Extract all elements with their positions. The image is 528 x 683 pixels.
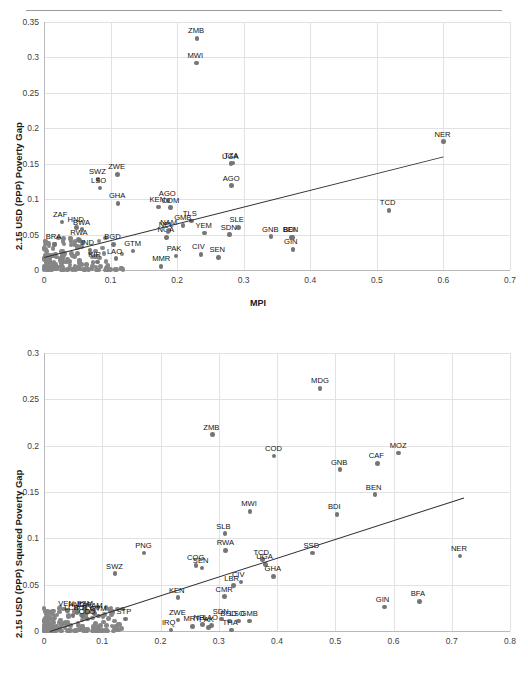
data-point	[46, 621, 51, 626]
x-axis-tick-label: 0.4	[263, 636, 291, 646]
data-point	[99, 629, 104, 634]
data-point	[176, 618, 181, 623]
data-point	[269, 234, 274, 239]
data-point	[64, 260, 69, 265]
data-point	[291, 247, 296, 252]
data-point-label: GTM	[124, 239, 141, 248]
y-axis-tick-label: 0.2	[10, 441, 39, 451]
x-axis-tick-label: 0.5	[363, 275, 391, 285]
y-axis-line	[44, 353, 45, 631]
data-point-label: ZMB	[188, 26, 204, 35]
data-point-label: ZAF	[53, 210, 67, 219]
data-point	[174, 254, 179, 259]
data-point	[181, 223, 186, 228]
data-point	[114, 256, 119, 261]
data-point-label: ZWE	[108, 162, 125, 171]
header-divider	[26, 10, 502, 11]
data-point	[75, 266, 80, 271]
data-point	[123, 617, 128, 622]
data-point-label: RWA	[70, 228, 87, 237]
data-point	[80, 227, 85, 232]
data-point-label: COD	[79, 607, 96, 616]
data-point-label: GNB	[331, 458, 347, 467]
y-axis-tick-label: 0.25	[10, 88, 39, 98]
x-axis-tick-label: 0.2	[147, 636, 175, 646]
data-point-label: PAK	[199, 615, 214, 624]
data-point	[142, 551, 147, 556]
x-axis-tick-label: 0.2	[163, 275, 191, 285]
y-axis-tick-label: 0.2	[10, 123, 39, 133]
data-point-label: NER	[451, 544, 467, 553]
data-point-label: BDI	[328, 502, 341, 511]
gridline-vertical	[377, 22, 378, 270]
data-point	[375, 461, 380, 466]
gridline-vertical	[510, 353, 511, 631]
gridline-vertical	[177, 22, 178, 270]
gridline-horizontal	[44, 353, 510, 354]
figure-page: 2.15 USD (PPP) poverty measures and MPI …	[0, 0, 528, 683]
y-axis-tick-label: 0.05	[10, 580, 39, 590]
data-point	[54, 266, 59, 271]
data-point-label: BEN	[366, 483, 382, 492]
data-point	[200, 566, 205, 571]
data-point-label: YEM	[195, 221, 211, 230]
data-point	[156, 205, 161, 210]
x-axis-tick-label: 0.8	[496, 636, 524, 646]
data-point	[216, 255, 221, 260]
gridline-vertical	[443, 22, 444, 270]
y-axis-tick-label: 0.1	[10, 533, 39, 543]
data-point	[310, 551, 315, 556]
data-point-label: PNG	[135, 541, 151, 550]
gridline-horizontal	[44, 492, 510, 493]
gridline-horizontal	[44, 538, 510, 539]
data-point	[210, 432, 215, 437]
data-point-label: NER	[434, 130, 450, 139]
x-axis-tick-label: 0.3	[205, 636, 233, 646]
x-axis-tick-label: 0.3	[230, 275, 258, 285]
chart1-x-axis-title: MPI	[250, 298, 266, 308]
x-axis-tick-label: 0.1	[88, 636, 116, 646]
gridline-horizontal	[44, 22, 510, 23]
x-axis-tick-label: 0	[30, 636, 58, 646]
gridline-vertical	[510, 22, 511, 270]
data-point	[51, 266, 56, 271]
data-point-label: SLB	[216, 522, 230, 531]
data-point-label: GMB	[241, 609, 258, 618]
data-point	[247, 619, 252, 624]
clipped-heading-strip: 2.15 USD (PPP) poverty measures and MPI	[0, 0, 528, 14]
chart2-plot-area: MDGZMBCODMOZCAFGNBBENMWIBDISLBRWASSDPNGN…	[44, 353, 510, 631]
data-point	[42, 629, 47, 634]
data-point	[60, 220, 65, 225]
data-point-label: PAK	[167, 244, 182, 253]
y-axis-tick-label: 0.05	[10, 230, 39, 240]
data-point	[190, 624, 195, 629]
data-point-label: LSO	[91, 176, 106, 185]
data-point-label: GIN	[376, 595, 390, 604]
data-point	[111, 629, 116, 634]
data-point	[121, 267, 126, 272]
data-point	[195, 36, 200, 41]
data-point	[206, 625, 211, 630]
y-axis-tick-label: 0.25	[10, 394, 39, 404]
x-axis-tick-label: 0.6	[429, 275, 457, 285]
data-point	[42, 618, 47, 623]
data-point-label: CAF	[369, 451, 384, 460]
data-point	[417, 599, 422, 604]
data-point	[236, 225, 241, 230]
data-point	[396, 451, 401, 456]
data-point-label: COD	[265, 444, 282, 453]
data-point	[94, 629, 99, 634]
data-point-label: COM	[161, 196, 179, 205]
data-point	[290, 235, 295, 240]
data-point	[168, 205, 173, 210]
scatter-chart-poverty-gap: 2.15 USD (PPP) Poverty Gap MPI ZMBMWINER…	[0, 14, 528, 326]
x-axis-tick-label: 0.1	[97, 275, 125, 285]
data-point-label: BFA	[411, 589, 425, 598]
data-point	[115, 172, 120, 177]
x-axis-tick-label: 0.5	[321, 636, 349, 646]
data-point	[382, 605, 387, 610]
data-point	[102, 251, 107, 256]
data-point-label: THA	[223, 618, 238, 627]
data-point-label: SEN	[193, 556, 209, 565]
data-point	[54, 255, 59, 260]
